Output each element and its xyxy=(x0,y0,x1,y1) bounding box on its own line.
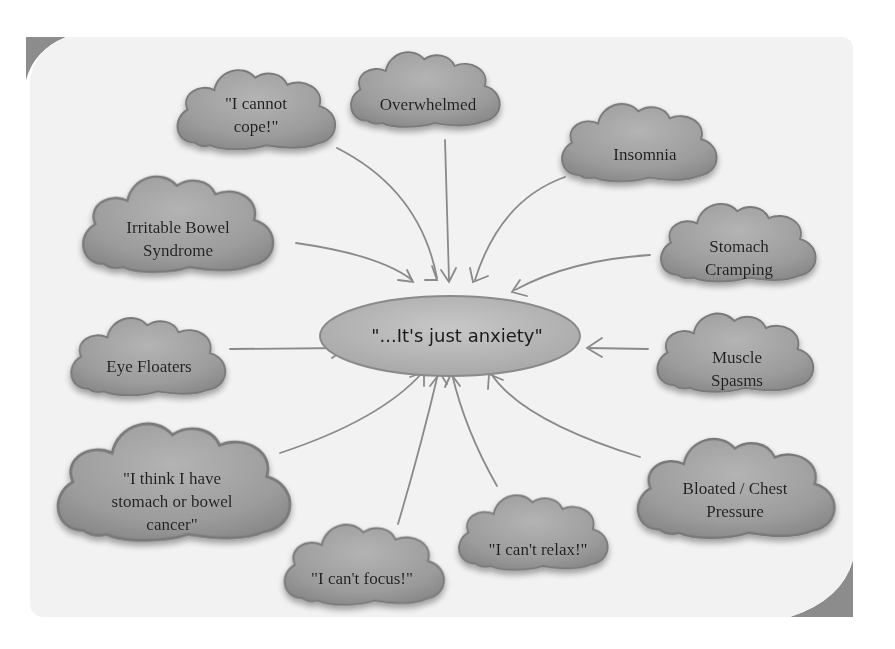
node-bloated-chest-pressure: Bloated / Chest Pressure xyxy=(683,477,788,523)
node-insomnia: Insomnia xyxy=(613,143,676,166)
node-overwhelmed: Overwhelmed xyxy=(380,93,476,116)
node-eye-floaters: Eye Floaters xyxy=(106,355,191,378)
node-label-line: Eye Floaters xyxy=(106,355,191,378)
node-label-line: cope!" xyxy=(225,115,287,138)
node-cannot-cope: "I cannot cope!" xyxy=(225,92,287,138)
center-node-label: "...It's just anxiety" xyxy=(371,325,543,346)
node-label-line: Pressure xyxy=(683,500,788,523)
node-label-line: Stomach xyxy=(705,235,773,258)
node-label-line: stomach or bowel xyxy=(112,490,233,513)
node-stomach-cramping: Stomach Cramping xyxy=(705,235,773,281)
node-label-line: cancer" xyxy=(112,513,233,536)
node-label-line: "I can't relax!" xyxy=(488,538,587,561)
node-label-line: "I think I have xyxy=(112,467,233,490)
node-irritable-bowel-syndrome: Irritable Bowel Syndrome xyxy=(126,216,229,262)
node-cant-relax: "I can't relax!" xyxy=(488,538,587,561)
node-label-line: Irritable Bowel xyxy=(126,216,229,239)
node-label-line: Cramping xyxy=(705,258,773,281)
node-label-line: Insomnia xyxy=(613,143,676,166)
node-label-line: Spasms xyxy=(711,369,763,392)
node-stomach-bowel-cancer: "I think I have stomach or bowel cancer" xyxy=(112,467,233,536)
node-label-line: Muscle xyxy=(711,346,763,369)
node-label-line: Syndrome xyxy=(126,239,229,262)
node-muscle-spasms: Muscle Spasms xyxy=(711,346,763,392)
node-label-line: "I cannot xyxy=(225,92,287,115)
node-label-line: Overwhelmed xyxy=(380,93,476,116)
node-label-line: "I can't focus!" xyxy=(311,567,413,590)
node-label-line: Bloated / Chest xyxy=(683,477,788,500)
node-cant-focus: "I can't focus!" xyxy=(311,567,413,590)
